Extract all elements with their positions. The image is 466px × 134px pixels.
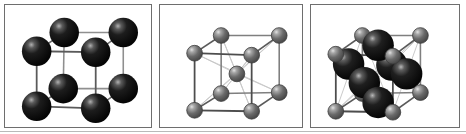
atom-back-top-right (109, 18, 139, 48)
panel-body-centered-cubic (159, 4, 303, 128)
atom-back-top-right (271, 28, 287, 44)
atom-front-top-right (244, 47, 260, 63)
bond-group-back (221, 36, 279, 94)
atom-back-bottom-right (413, 85, 429, 101)
atom-front-bottom-left (187, 102, 203, 118)
panel-face-centered-cubic (310, 4, 460, 128)
simple-cubic-diagram (5, 5, 151, 127)
atom-back-bottom-left (213, 86, 229, 102)
atom-back-top-left (49, 18, 79, 48)
atom-body-center (229, 66, 245, 82)
atom-back-bottom-right (109, 74, 139, 104)
panel-simple-cubic (4, 4, 152, 128)
atom-back-top-right (413, 28, 429, 44)
atom-back-top-left (213, 28, 229, 44)
atom-front-top-right (81, 37, 111, 67)
face-centered-cubic-diagram (311, 5, 459, 127)
atom-front-bottom-left (22, 92, 52, 122)
body-centered-cubic-diagram (160, 5, 302, 127)
bottom-divider (0, 131, 466, 132)
atom-front-top-left (22, 36, 52, 66)
bond-group-connect (37, 33, 124, 109)
atom-front-bottom-left (328, 103, 344, 119)
atom-front-top-right (385, 48, 401, 64)
atom-front-top-left (328, 46, 344, 62)
atom-back-bottom-left (48, 74, 78, 104)
atom-front-top-left (187, 45, 203, 61)
atom-front-bottom-right (81, 94, 111, 124)
atom-back-bottom-right (271, 85, 287, 101)
atom-front-bottom-right (385, 104, 401, 120)
figure-root (0, 0, 466, 134)
atom-front-bottom-right (244, 103, 260, 119)
